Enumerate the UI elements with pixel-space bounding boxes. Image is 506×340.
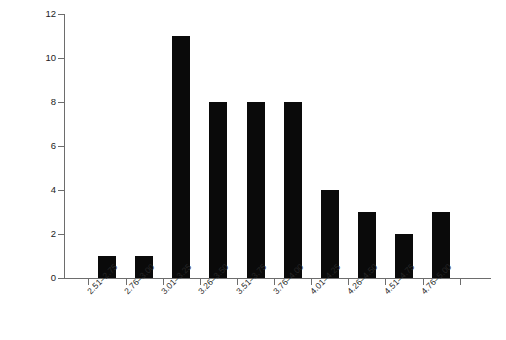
y-axis-tick-label: 12 xyxy=(36,8,56,19)
y-axis-tick-label: 0 xyxy=(36,272,56,283)
bar xyxy=(172,36,190,278)
x-axis-line xyxy=(64,278,491,279)
y-axis-tick-label: 6 xyxy=(36,140,56,151)
bar xyxy=(209,102,227,278)
y-axis-tick-label: 2 xyxy=(36,228,56,239)
x-axis-tick xyxy=(460,279,461,285)
y-axis-tick-label: 10 xyxy=(36,52,56,63)
bar xyxy=(247,102,265,278)
y-axis-tick xyxy=(58,278,65,279)
y-axis-tick-label: 8 xyxy=(36,96,56,107)
plot-area xyxy=(64,14,491,278)
frequency-histogram: Frequency 024681012 2.51–2.752.76–3.003.… xyxy=(0,0,506,340)
y-axis-tick-label: 4 xyxy=(36,184,56,195)
bar xyxy=(284,102,302,278)
